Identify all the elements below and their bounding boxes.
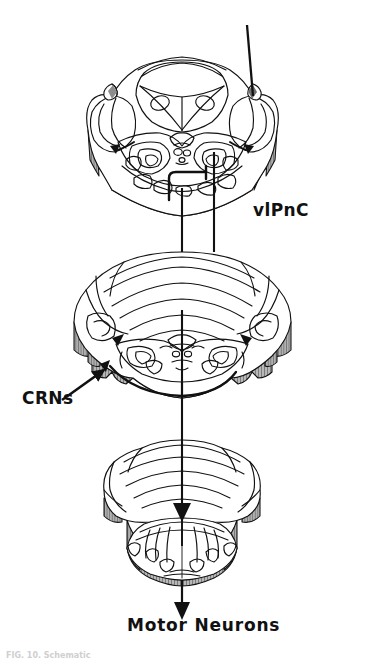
- figure-caption-clipped: FIG. 10. Schematic: [6, 651, 206, 660]
- label-vlpnc: vlPnC: [253, 200, 309, 220]
- label-motor-neurons: Motor Neurons: [127, 615, 280, 635]
- figure-canvas: [0, 0, 365, 660]
- figure-caption-text: FIG. 10. Schematic: [6, 651, 206, 660]
- label-crns: CRNs: [22, 388, 74, 408]
- brainstem-schematic-svg: [0, 0, 365, 660]
